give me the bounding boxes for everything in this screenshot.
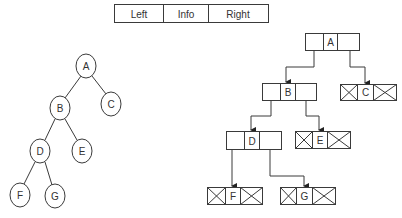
tree-node-e: E bbox=[72, 139, 92, 163]
tree-edges bbox=[24, 76, 106, 185]
svg-text:E: E bbox=[79, 146, 86, 157]
linked-node-e: E bbox=[296, 132, 351, 149]
tree-node-f: F bbox=[10, 183, 30, 207]
linked-tree: A B C D bbox=[208, 34, 397, 205]
tree-node-a: A bbox=[76, 54, 96, 78]
svg-text:G: G bbox=[301, 191, 309, 202]
linked-node-f: F bbox=[208, 188, 263, 205]
linked-node-d: D bbox=[227, 132, 282, 150]
tree-node-d: D bbox=[30, 139, 50, 163]
svg-text:G: G bbox=[51, 191, 59, 202]
binary-tree-diagram: Left Info Right A B C D bbox=[0, 0, 402, 218]
node-structure-legend: Left Info Right bbox=[115, 5, 269, 23]
linked-node-b: B bbox=[263, 84, 317, 101]
svg-text:C: C bbox=[107, 99, 114, 110]
legend-info-label: Info bbox=[178, 9, 195, 20]
tree-node-g: G bbox=[45, 184, 65, 208]
tree-node-b: B bbox=[50, 96, 70, 120]
svg-text:A: A bbox=[83, 61, 90, 72]
svg-text:B: B bbox=[57, 103, 64, 114]
linked-node-g: G bbox=[281, 188, 336, 205]
linked-node-a: A bbox=[306, 34, 360, 51]
pointer-arrows bbox=[232, 42, 365, 186]
svg-text:F: F bbox=[230, 191, 236, 202]
svg-text:D: D bbox=[36, 146, 43, 157]
linked-node-c: C bbox=[341, 85, 397, 101]
svg-text:F: F bbox=[17, 190, 23, 201]
svg-text:B: B bbox=[285, 87, 292, 98]
legend-right-label: Right bbox=[226, 9, 250, 20]
svg-text:E: E bbox=[317, 135, 324, 146]
conceptual-tree: A B C D E F G bbox=[10, 54, 121, 208]
svg-text:D: D bbox=[248, 136, 255, 147]
tree-node-c: C bbox=[101, 92, 121, 116]
legend-left-label: Left bbox=[131, 9, 148, 20]
svg-text:C: C bbox=[362, 87, 369, 98]
svg-text:A: A bbox=[327, 37, 334, 48]
